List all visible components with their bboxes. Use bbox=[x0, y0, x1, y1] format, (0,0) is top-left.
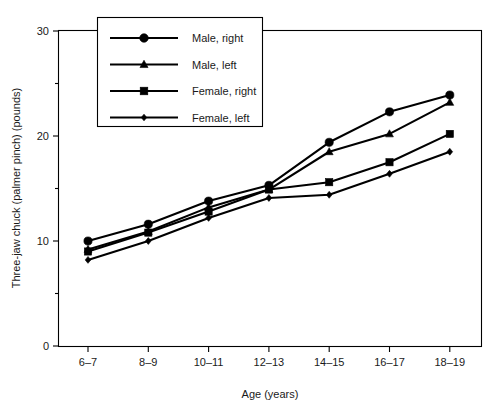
data-point-marker bbox=[84, 248, 91, 255]
y-axis-title: Three-jaw chuck (palmer pinch) (pounds) bbox=[10, 88, 22, 289]
data-point-marker bbox=[265, 186, 272, 193]
y-tick-label: 0 bbox=[43, 340, 49, 352]
x-tick-label: 12–13 bbox=[254, 356, 285, 368]
data-point-marker bbox=[84, 237, 92, 245]
x-axis-title: Age (years) bbox=[242, 388, 299, 400]
square-marker bbox=[140, 87, 148, 95]
legend-label: Male, right bbox=[192, 32, 243, 44]
y-tick-label: 30 bbox=[37, 25, 49, 37]
x-tick-label: 14–15 bbox=[314, 356, 345, 368]
data-point-marker bbox=[446, 130, 453, 137]
x-tick-label: 8–9 bbox=[139, 356, 157, 368]
circle-marker bbox=[140, 34, 149, 43]
data-point-marker bbox=[145, 229, 152, 236]
x-tick-label: 16–17 bbox=[374, 356, 405, 368]
y-tick-label: 10 bbox=[37, 235, 49, 247]
x-tick-label: 18–19 bbox=[435, 356, 466, 368]
data-point-marker bbox=[386, 159, 393, 166]
data-point-marker bbox=[325, 138, 333, 146]
x-tick-label: 6–7 bbox=[79, 356, 97, 368]
x-tick-label: 10–11 bbox=[194, 356, 224, 368]
line-chart: 0102030 6–78–910–1112–1314–1516–1718–19 … bbox=[0, 0, 498, 410]
data-point-marker bbox=[326, 179, 333, 186]
legend-label: Female, left bbox=[192, 112, 249, 124]
legend-label: Male, left bbox=[192, 59, 237, 71]
data-point-marker bbox=[385, 108, 393, 116]
y-tick-label: 20 bbox=[37, 130, 49, 142]
chart-container: 0102030 6–78–910–1112–1314–1516–1718–19 … bbox=[0, 0, 498, 410]
legend-label: Female, right bbox=[192, 85, 256, 97]
chart-legend: Male, rightMale, leftFemale, rightFemale… bbox=[98, 18, 263, 127]
